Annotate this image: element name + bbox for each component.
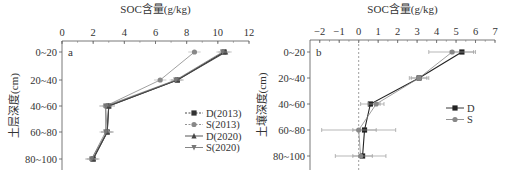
y-tick-label: 20~40 xyxy=(30,75,57,86)
panel-b: SOC含量(g/kg)−2−1012345670~2020~4040~6060~… xyxy=(255,2,498,170)
legend-label: D(2020) xyxy=(206,131,242,143)
x-tick-label: −2 xyxy=(314,26,325,37)
circle-marker-icon xyxy=(374,101,379,106)
legend-label: S xyxy=(467,114,473,125)
panel-a: SOC含量(g/kg)0246810120~2020~4040~6060~808… xyxy=(7,2,254,170)
y-tick-label: 40~60 xyxy=(30,101,57,112)
circle-marker-icon xyxy=(416,75,421,80)
y-tick-label: 0~20 xyxy=(284,47,305,58)
series-s xyxy=(322,49,476,158)
series-line xyxy=(93,52,224,159)
x-tick-label: 0 xyxy=(356,26,361,37)
y-tick-label: 0~20 xyxy=(36,47,57,58)
x-tick-label: 2 xyxy=(91,27,96,38)
square-marker-icon xyxy=(191,110,196,115)
x-tick-label: 3 xyxy=(414,26,419,37)
chart-canvas: SOC含量(g/kg)0246810120~2020~4040~6060~808… xyxy=(0,0,511,181)
circle-marker-icon xyxy=(356,127,361,132)
circle-marker-icon xyxy=(450,49,455,54)
x-tick-label: −1 xyxy=(334,26,345,37)
x-tick-label: 6 xyxy=(473,26,478,37)
circle-marker-icon xyxy=(158,77,163,82)
circle-marker-icon xyxy=(192,49,197,54)
y-tick-label: 40~60 xyxy=(278,99,305,110)
legend: D(2013)S(2013)D(2020)S(2020) xyxy=(185,108,242,155)
legend: DS xyxy=(446,103,475,126)
legend-label: D xyxy=(467,103,475,114)
y-tick-label: 20~40 xyxy=(278,73,305,84)
circle-marker-icon xyxy=(452,117,457,122)
legend-label: S(2020) xyxy=(206,142,240,154)
circle-marker-icon xyxy=(191,122,196,127)
x-tick-label: 5 xyxy=(453,26,458,37)
panel-label: a xyxy=(68,46,73,58)
y-tick-label: 60~80 xyxy=(278,125,305,136)
x-tick-label: 1 xyxy=(376,26,381,37)
legend-label: D(2013) xyxy=(206,108,242,120)
square-marker-icon xyxy=(452,105,457,110)
y-axis-title: 土层深度(cm) xyxy=(7,73,21,138)
x-tick-label: 7 xyxy=(492,26,497,37)
panel-label: b xyxy=(316,46,322,58)
y-tick-label: 80~100 xyxy=(273,151,305,162)
x-axis-title: SOC含量(g/kg) xyxy=(367,2,438,16)
x-tick-label: 4 xyxy=(122,27,128,38)
x-tick-label: 8 xyxy=(184,27,189,38)
x-tick-label: 10 xyxy=(213,27,224,38)
x-tick-label: 4 xyxy=(434,26,440,37)
x-axis-title: SOC含量(g/kg) xyxy=(120,2,191,16)
series-s2013 xyxy=(85,49,200,161)
circle-marker-icon xyxy=(358,153,363,158)
x-tick-label: 0 xyxy=(59,27,64,38)
y-tick-label: 60~80 xyxy=(30,127,57,138)
legend-label: S(2013) xyxy=(206,119,240,131)
x-tick-label: 12 xyxy=(244,27,255,38)
y-axis-title: 土壤深度(cm) xyxy=(255,72,269,137)
y-tick-label: 80~100 xyxy=(25,154,57,165)
x-tick-label: 2 xyxy=(395,26,400,37)
x-tick-label: 6 xyxy=(153,27,158,38)
